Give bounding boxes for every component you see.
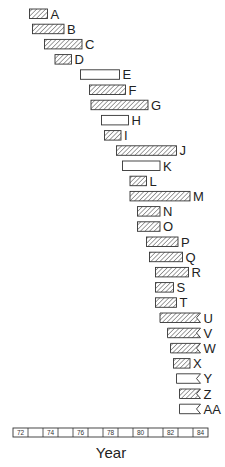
bar-o: O [138,219,174,234]
bar-b: B [33,22,76,37]
bar-m: M [130,189,204,204]
bar-mark [171,343,201,353]
x-tick-label: 76 [77,429,85,436]
bar-t: T [156,295,188,310]
bar-mark [177,374,201,384]
x-tick-label: 82 [167,429,175,436]
bar-mark [156,267,189,277]
bar-label: M [193,189,204,204]
bar-label: H [132,113,141,128]
bar-x: X [174,356,203,371]
bar-mark [180,404,201,414]
bar-e: E [81,67,132,82]
bar-label: X [193,356,202,371]
bar-mark [117,146,177,156]
year-axis: 72747678808284 [13,428,208,437]
bar-mark [160,313,201,323]
bars-group: ABCDEFGHIJKLMNOPQRSTUVWXYZAA [30,7,222,417]
bar-z: Z [180,387,212,402]
bar-u: U [160,311,213,326]
bar-j: J [117,143,187,158]
bar-mark [30,9,48,19]
bar-mark [45,39,83,49]
bar-i: I [105,128,128,143]
bar-r: R [156,265,201,280]
bar-label: C [85,37,94,52]
bar-v: V [168,326,213,341]
bar-label: AA [204,402,222,417]
bar-g: G [91,98,161,113]
bar-label: I [124,128,128,143]
bar-label: G [151,98,161,113]
bar-l: L [130,174,157,189]
bar-y: Y [177,371,213,386]
bar-label: P [181,235,190,250]
bar-label: O [163,219,173,234]
bar-label: A [51,7,60,22]
bar-mark [90,85,126,95]
x-tick-label: 84 [197,429,205,436]
bar-mark [138,222,161,232]
bar-a: A [30,7,60,22]
bar-mark [180,389,201,399]
bar-label: S [177,280,186,295]
bar-label: L [150,174,157,189]
bar-aa: AA [180,402,222,417]
x-tick-label: 72 [17,429,25,436]
x-tick-label: 80 [137,429,145,436]
bar-label: Z [204,387,212,402]
gantt-chart: ABCDEFGHIJKLMNOPQRSTUVWXYZAA 72747678808… [0,0,225,467]
bar-label: N [163,204,172,219]
bar-mark [174,359,191,369]
bar-label: K [163,159,172,174]
bar-label: E [123,67,132,82]
bar-q: Q [150,250,196,265]
bar-s: S [156,280,186,295]
bar-mark [147,237,179,247]
bar-f: F [90,83,137,98]
bar-label: T [180,295,188,310]
bar-label: U [204,311,213,326]
bar-mark [150,252,183,262]
bar-mark [105,131,122,141]
x-tick-label: 74 [47,429,55,436]
bar-label: F [129,83,137,98]
bar-mark [81,70,120,80]
bar-label: D [75,52,84,67]
bar-mark [168,328,201,338]
bar-mark [156,283,174,293]
x-tick-label: 78 [107,429,115,436]
bar-w: W [171,341,217,356]
bar-mark [102,115,129,125]
bar-mark [33,24,65,34]
bar-label: Q [186,250,196,265]
bar-label: R [192,265,201,280]
bar-mark [138,207,161,217]
bar-label: B [67,22,76,37]
bar-n: N [138,204,173,219]
bar-mark [123,161,161,171]
bar-p: P [147,235,190,250]
bar-label: J [180,143,187,158]
bar-mark [130,191,190,201]
bar-k: K [123,159,173,174]
bar-d: D [55,52,84,67]
bar-label: W [204,341,217,356]
bar-h: H [102,113,141,128]
x-axis-title: Year [96,444,126,461]
bar-mark [55,55,72,65]
bar-mark [156,298,177,308]
bar-label: Y [204,371,213,386]
bar-c: C [45,37,95,52]
bar-mark [130,176,147,186]
bar-mark [91,100,148,110]
bar-label: V [204,326,213,341]
